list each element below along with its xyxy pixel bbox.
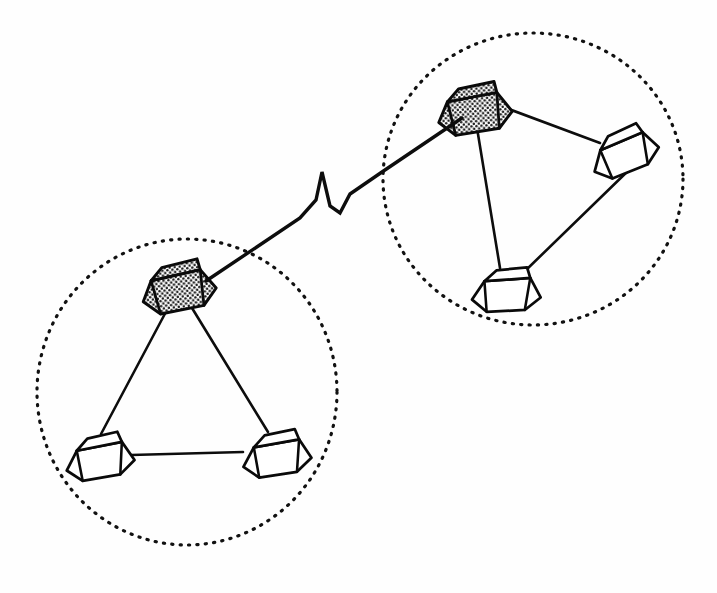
link-left-server-southwest xyxy=(101,308,168,434)
network-topology-svg xyxy=(0,0,717,593)
cluster-right xyxy=(383,33,683,325)
cluster-left-links xyxy=(101,308,268,455)
node-left-southwest[interactable] xyxy=(64,431,135,482)
node-right-east[interactable] xyxy=(585,119,664,183)
wan-interconnect[interactable] xyxy=(206,118,462,281)
wan-link-path[interactable] xyxy=(206,118,462,281)
node-right-south[interactable] xyxy=(471,264,542,314)
cluster-right-links xyxy=(477,108,631,272)
link-right-east-south xyxy=(524,168,631,272)
link-right-server-east xyxy=(506,108,600,143)
node-left-server[interactable] xyxy=(139,257,218,315)
node-left-southeast[interactable] xyxy=(242,428,313,478)
link-right-server-south xyxy=(477,128,500,268)
link-left-southwest-southeast xyxy=(131,452,243,455)
link-left-server-southeast xyxy=(192,308,268,432)
network-diagram-canvas xyxy=(0,0,717,593)
cluster-left xyxy=(37,239,337,545)
